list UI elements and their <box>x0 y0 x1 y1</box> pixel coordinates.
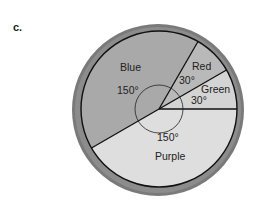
angle-blue: 150° <box>117 84 139 96</box>
angle-green: 30° <box>191 94 207 106</box>
pie-chart: Blue 150° Red 30° Green 30° 150° Purple <box>0 0 254 209</box>
label-red: Red <box>192 60 211 72</box>
label-blue: Blue <box>120 61 141 73</box>
angle-red: 30° <box>179 74 195 86</box>
angle-purple: 150° <box>157 131 179 143</box>
label-purple: Purple <box>155 150 186 162</box>
